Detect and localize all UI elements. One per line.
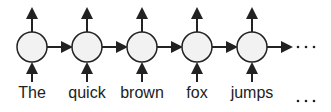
token-label: The — [18, 84, 46, 102]
token-label: brown — [120, 84, 164, 102]
node-1 — [72, 9, 102, 82]
token-label: quick — [68, 84, 105, 102]
token-label: jumps — [231, 84, 274, 102]
node-0 — [17, 9, 47, 82]
node-3 — [182, 9, 212, 82]
rnn-diagram — [0, 0, 331, 112]
node-2 — [127, 9, 157, 82]
ellipsis-dots — [297, 46, 316, 103]
node-4 — [237, 9, 267, 82]
token-label: fox — [186, 84, 207, 102]
